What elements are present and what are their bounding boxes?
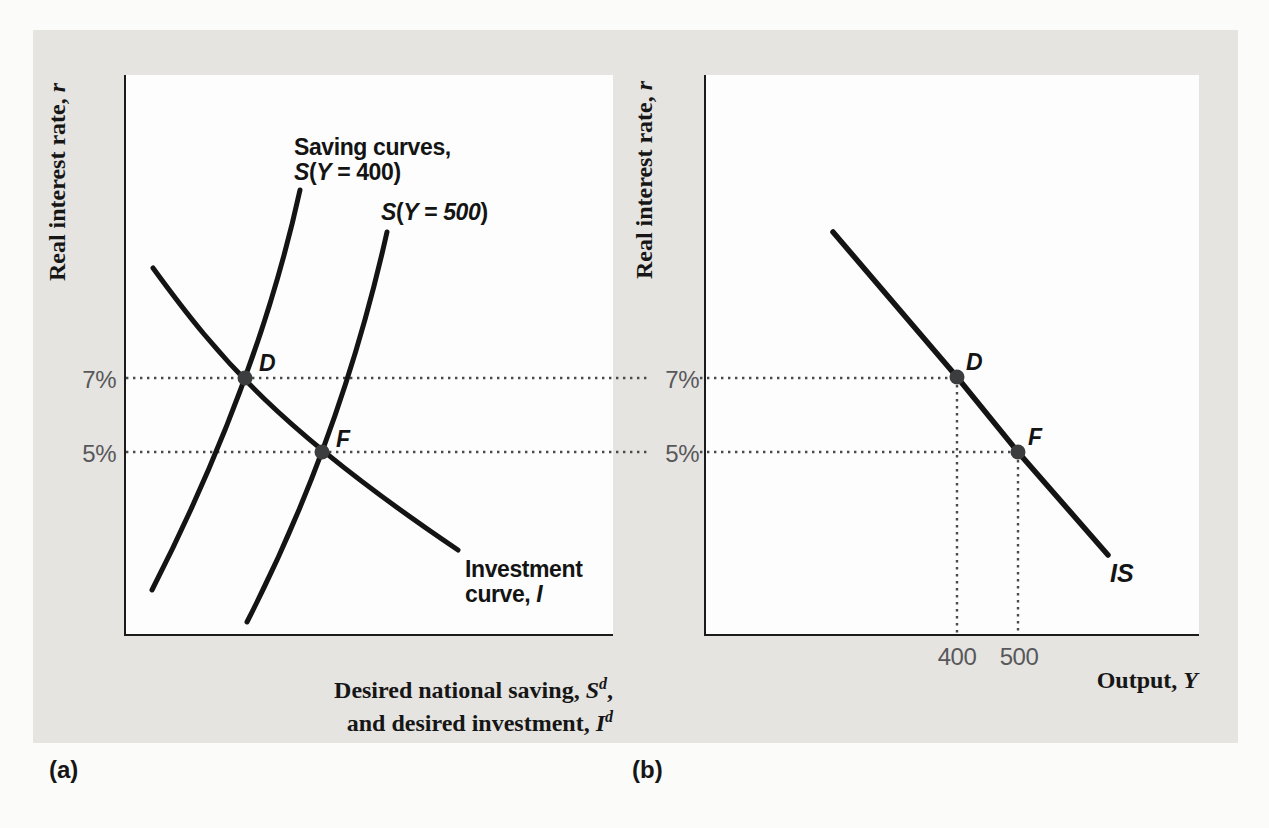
output-text: Output, [1097,667,1184,693]
tick-7-percent-panel-a: 7% [66,366,116,394]
y-axis-label-panel-a: Real interest rate, r [44,62,74,302]
y-axis-label-panel-b: Real interest rate, r [631,60,661,300]
figure: Real interest rate, r Saving curves, S(Y… [0,0,1269,828]
y-symbol: Y [1183,667,1198,693]
desired-saving-text: Desired national saving, [334,677,586,703]
point-d-label-panel-b: D [966,349,983,376]
x-axis-label-line2: and desired investment, Id [250,704,613,737]
y-axis-label-text: Real interest rate, [631,90,657,279]
panel-a-caption: (a) [49,756,78,784]
point-f-label-panel-b: F [1028,424,1042,451]
saving-curve-500-label: S(Y = 500) [381,200,488,225]
tick-output-500: 500 [992,643,1046,671]
superscript-d: d [599,675,607,692]
y-symbol: Y [316,159,331,185]
equals: = [331,159,356,185]
y-symbol: Y [403,199,418,225]
tick-5-percent-panel-b: 5% [649,440,699,468]
saving-curves-label-line1: Saving curves, [294,135,451,160]
i-symbol: I [596,710,605,736]
x-axis-label-panel-a: Desired national saving, Sd, and desired… [250,671,613,736]
point-d-label-panel-a: D [259,350,276,377]
s-symbol: S [586,677,599,703]
superscript-d: d [605,708,613,725]
x-axis-label-line1: Desired national saving, Sd, [250,671,613,704]
desired-investment-text: and desired investment, [347,710,596,736]
point-f-label-panel-a: F [336,426,350,453]
tick-7-percent-panel-b: 7% [649,366,699,394]
is-curve-label: IS [1110,559,1134,588]
investment-curve-label: Investment curve, I [465,557,582,607]
value-500: 500 [443,199,480,225]
investment-label-line1: Investment [465,557,582,582]
s-symbol: S [381,199,396,225]
s-symbol: S [294,159,309,185]
saving-curves-label: Saving curves, S(Y = 400) [294,135,451,185]
y-axis-variable-r: r [631,81,657,90]
y-axis-variable-r: r [44,83,70,92]
value-400: 400 [356,159,393,185]
saving-curve-400-label: S(Y = 400) [294,160,451,185]
curve-text: curve, [465,581,536,607]
comma: , [607,677,613,703]
panel-b-caption: (b) [632,756,663,784]
plot-area-is-curve [704,75,1199,636]
paren: ) [480,199,487,225]
y-axis-label-text: Real interest rate, [44,92,70,281]
paren: ) [393,159,400,185]
tick-5-percent-panel-a: 5% [66,440,116,468]
i-symbol: I [536,581,542,607]
equals: = [418,199,443,225]
tick-output-400: 400 [930,643,984,671]
x-axis-label-panel-b: Output, Y [998,668,1198,694]
investment-label-line2: curve, I [465,582,582,607]
